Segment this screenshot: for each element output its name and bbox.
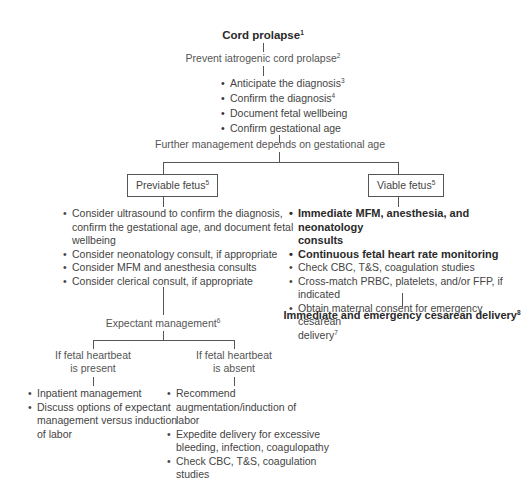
expectant-management-node: Expectant management6 bbox=[106, 317, 221, 330]
viable-label: Viable fetus bbox=[377, 179, 432, 191]
present-action: •Inpatient management bbox=[28, 387, 177, 401]
absent-action: •Expedite delivery for excessivebleeding… bbox=[167, 428, 329, 455]
prevent-node: Prevent iatrogenic cord prolapse2 bbox=[186, 52, 341, 65]
connector bbox=[402, 293, 403, 307]
viable-action: •Continuous fetal heart rate monitoring bbox=[289, 248, 526, 262]
cesarean-delivery-node: Immediate and emergency cesarean deliver… bbox=[283, 309, 520, 322]
heartbeat-absent-list: •Recommendaugmentation/induction oflabor… bbox=[167, 387, 329, 482]
previable-label: Previable fetus bbox=[136, 179, 205, 191]
initial-steps-list: Anticipate the diagnosis3 Confirm the di… bbox=[221, 77, 347, 137]
previable-action: •Consider MFM and anesthesia consults bbox=[63, 261, 293, 275]
final-text: Immediate and emergency cesarean deliver… bbox=[283, 309, 517, 321]
previable-action: •Consider ultrasound to confirm the diag… bbox=[63, 207, 293, 248]
root-title: Cord prolapse1 bbox=[222, 29, 304, 42]
viable-action: •Immediate MFM, anesthesia, and neonatol… bbox=[289, 207, 526, 248]
viable-action: •Check CBC, T&S, coagulation studies bbox=[289, 261, 526, 275]
previable-fetus-box: Previable fetus5 bbox=[127, 174, 218, 197]
initial-step: Anticipate the diagnosis3 bbox=[221, 77, 347, 90]
heartbeat-present-node: If fetal heartbeatis present bbox=[55, 349, 131, 375]
prevent-text: Prevent iatrogenic cord prolapse bbox=[186, 52, 337, 64]
connector bbox=[234, 340, 235, 349]
connector bbox=[234, 377, 235, 386]
branch-line bbox=[163, 162, 399, 163]
previable-action: •Consider neonatology consult, if approp… bbox=[63, 248, 293, 262]
prevent-ref: 2 bbox=[337, 52, 341, 59]
connector bbox=[263, 66, 264, 76]
connector bbox=[93, 377, 94, 386]
connector bbox=[93, 340, 94, 349]
further-management-node: Further management depends on gestationa… bbox=[155, 138, 385, 151]
connector bbox=[263, 43, 264, 52]
initial-step: Confirm gestational age bbox=[221, 122, 347, 135]
previable-actions-list: •Consider ultrasound to confirm the diag… bbox=[63, 207, 293, 288]
absent-action: •Check CBC, T&S, coagulationstudies bbox=[167, 455, 329, 482]
expectant-ref: 6 bbox=[217, 317, 221, 324]
previable-action: •Consider clerical consult, if appropria… bbox=[63, 275, 293, 289]
viable-ref: 5 bbox=[432, 179, 436, 186]
expectant-text: Expectant management bbox=[106, 317, 217, 329]
heartbeat-absent-node: If fetal heartbeatis absent bbox=[196, 349, 272, 375]
viable-fetus-box: Viable fetus5 bbox=[368, 174, 444, 197]
initial-step: Confirm the diagnosis4 bbox=[221, 92, 347, 105]
previable-ref: 5 bbox=[205, 179, 209, 186]
connector bbox=[279, 152, 280, 162]
root-title-text: Cord prolapse bbox=[222, 29, 300, 41]
connector bbox=[163, 197, 164, 207]
connector bbox=[163, 331, 164, 340]
absent-action: •Recommendaugmentation/induction oflabor bbox=[167, 387, 329, 428]
heartbeat-present-list: •Inpatient management •Discuss options o… bbox=[28, 387, 177, 441]
further-text: Further management depends on gestationa… bbox=[155, 138, 385, 150]
connector bbox=[163, 287, 164, 315]
root-ref: 1 bbox=[300, 29, 304, 36]
final-ref: 8 bbox=[517, 309, 521, 316]
connector bbox=[398, 197, 399, 207]
present-action: •Discuss options of expectantmanagement … bbox=[28, 401, 177, 442]
initial-step: Document fetal wellbeing bbox=[221, 107, 347, 120]
viable-action: •Cross-match PRBC, platelets, and/or FFP… bbox=[289, 275, 526, 302]
branch-line bbox=[93, 340, 235, 341]
